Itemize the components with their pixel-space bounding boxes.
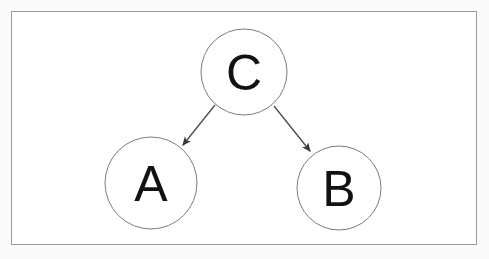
edge-c-to-b [274, 106, 310, 151]
node-a-label: A [134, 156, 168, 212]
node-c-label: C [226, 45, 262, 101]
graph-svg: C A B [0, 0, 489, 259]
node-a[interactable]: A [105, 137, 197, 229]
diagram-canvas: C A B [0, 0, 489, 259]
edge-c-to-a [183, 105, 215, 145]
node-c[interactable]: C [201, 29, 287, 115]
node-b-label: B [322, 161, 355, 217]
node-b[interactable]: B [297, 146, 381, 230]
